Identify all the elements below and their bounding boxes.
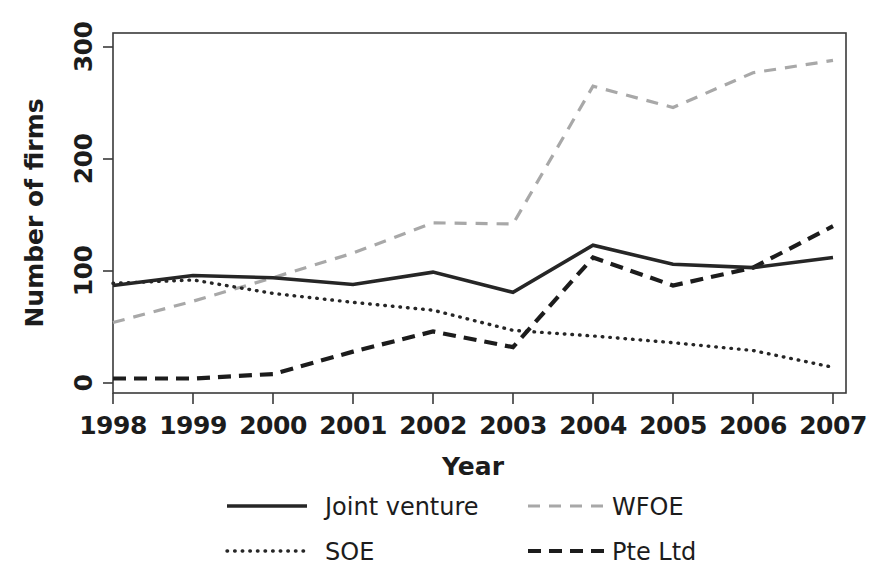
x-tick-label-1998: 1998 [79, 411, 147, 440]
x-tick-label-2006: 2006 [719, 411, 787, 440]
x-axis-tick-labels: 1998 1999 2000 2001 2002 2003 2004 2005 … [79, 411, 867, 440]
x-tick-label-2003: 2003 [479, 411, 547, 440]
x-tick-label-2004: 2004 [559, 411, 627, 440]
y-axis-title: Number of firms [20, 98, 49, 327]
x-tick-label-2000: 2000 [239, 411, 307, 440]
x-axis-ticks [113, 393, 833, 404]
legend-label-soe: SOE [325, 538, 374, 566]
y-tick-label-300: 300 [69, 22, 98, 73]
y-tick-label-200: 200 [69, 134, 98, 185]
y-tick-label-100: 100 [69, 246, 98, 297]
x-tick-label-2001: 2001 [319, 411, 387, 440]
x-tick-label-2007: 2007 [799, 411, 867, 440]
x-axis-title: Year [441, 452, 505, 481]
y-axis-tick-labels: 300 200 100 0 [69, 22, 98, 392]
legend-label-joint-venture: Joint venture [323, 493, 479, 521]
y-axis-ticks [103, 47, 113, 383]
x-tick-label-2005: 2005 [639, 411, 707, 440]
y-tick-label-0: 0 [69, 374, 98, 391]
x-tick-label-1999: 1999 [159, 411, 227, 440]
legend: Joint venture WFOE SOE Pte Ltd [227, 493, 696, 566]
plot-frame [113, 33, 846, 393]
x-tick-label-2002: 2002 [399, 411, 467, 440]
line-chart: 300 200 100 0 Number of firms 1998 1999 … [0, 0, 884, 576]
legend-label-wfoe: WFOE [612, 493, 684, 521]
chart-page: 300 200 100 0 Number of firms 1998 1999 … [0, 0, 884, 576]
series-line-pte-ltd [113, 226, 833, 378]
legend-label-pte-ltd: Pte Ltd [612, 538, 696, 566]
series-group [113, 60, 833, 378]
